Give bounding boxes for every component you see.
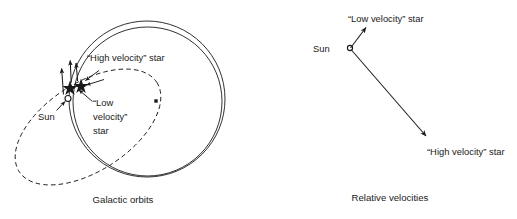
left-low-velocity-star-label-line1: “Low: [93, 97, 114, 108]
low-velocity-star-leader: [79, 90, 93, 102]
diagram-svg: “High velocity” star “Low velocity” star…: [0, 0, 517, 219]
sun-marker: [65, 96, 71, 102]
left-high-velocity-star-label: “High velocity” star: [87, 52, 165, 63]
right-low-velocity-star-label: “Low velocity” star: [348, 13, 424, 24]
right-high-velocity-star-label: “High velocity” star: [427, 146, 505, 157]
high-velocity-relative-vector: [351, 50, 426, 137]
figure-root: “High velocity” star “Low velocity” star…: [0, 0, 517, 219]
low-velocity-star-vector: [70, 61, 71, 83]
left-low-velocity-star-label-line3: star: [93, 125, 109, 136]
high-velocity-star-leader: [86, 71, 100, 81]
right-panel-caption: Relative velocities: [352, 192, 429, 203]
high-velocity-orbit-leader: [87, 80, 105, 86]
right-sun-label: Sun: [313, 43, 330, 54]
left-sun-label: Sun: [38, 111, 55, 122]
low-velocity-relative-vector: [351, 28, 367, 49]
left-low-velocity-star-label-line2: velocity”: [93, 111, 127, 122]
right-panel-relative-velocities: “Low velocity” star Sun “High velocity” …: [313, 13, 505, 203]
galactic-center-marker: [154, 99, 157, 102]
left-panel-caption: Galactic orbits: [93, 194, 154, 205]
left-panel-galactic-orbits: “High velocity” star “Low velocity” star…: [0, 21, 225, 209]
sun-leader: [57, 102, 66, 111]
high-velocity-orbit-dashed: [0, 45, 181, 208]
